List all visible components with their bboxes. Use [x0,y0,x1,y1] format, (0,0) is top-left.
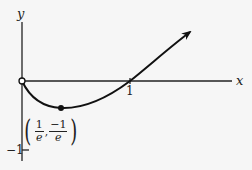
origin-open-circle [19,78,25,84]
y-axis-label: y [17,6,24,21]
x-axis-label: x [236,73,243,88]
minimum-point-label: ( 1 e , −1 e ) [22,116,80,146]
minimum-point [58,105,64,111]
y-fraction: −1 e [49,119,67,144]
curve [22,32,190,108]
x-tick-label-one: 1 [126,84,134,98]
x-fraction: 1 e [35,119,44,144]
